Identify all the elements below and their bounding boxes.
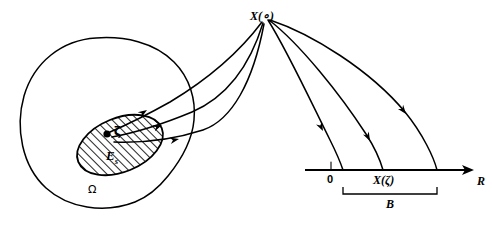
right-curve-2-arrowhead	[363, 131, 373, 142]
subregion-label-es-sub: s	[115, 156, 118, 166]
subregion-label-es-base: E	[106, 148, 115, 163]
b-bracket	[343, 187, 437, 194]
figure-canvas	[0, 0, 492, 231]
b-bracket-group	[343, 187, 437, 194]
image-point-label-x-zeta: X(ζ)	[373, 174, 394, 186]
right-curve-2	[269, 20, 383, 170]
axis-label-r: R	[477, 175, 485, 187]
axis-origin-label: 0	[327, 174, 333, 185]
point-label-zeta: ζ	[114, 126, 121, 138]
apex-label-x-circ: X(∘)	[250, 10, 274, 22]
right-curves-group	[268, 20, 437, 170]
domain-label-omega: Ω	[88, 184, 96, 195]
figure-root: Ω Es ζ X(∘) 0 X(ζ) R B	[0, 0, 492, 231]
right-curve-3	[270, 20, 437, 170]
bracket-label-b: B	[386, 198, 394, 210]
right-curve-1	[268, 20, 343, 170]
subregion-label-es: Es	[106, 149, 118, 165]
